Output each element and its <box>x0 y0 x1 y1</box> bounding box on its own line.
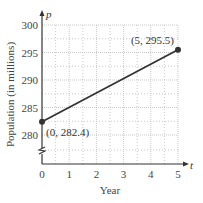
x-tick-label: 3 <box>121 168 127 180</box>
x-axis-arrow-icon <box>183 162 189 167</box>
y-tick-label: 295 <box>22 47 39 59</box>
data-point <box>39 119 45 125</box>
y-tick-label: 300 <box>22 19 39 31</box>
y-axis-arrow-icon <box>40 10 45 16</box>
x-axis-title: Year <box>100 184 121 196</box>
population-line-chart: 012345280285290295300 (0, 282.4)(5, 295.… <box>0 0 203 203</box>
x-tick-label: 0 <box>39 168 45 180</box>
x-tick-label: 1 <box>66 168 72 180</box>
y-tick-label: 290 <box>22 74 39 86</box>
y-axis-variable: p <box>45 8 52 20</box>
x-tick-label: 4 <box>148 168 154 180</box>
y-tick-label: 285 <box>22 102 39 114</box>
x-axis-variable: t <box>190 159 194 171</box>
y-tick-label: 280 <box>22 129 39 141</box>
data-point-label: (5, 295.5) <box>131 34 174 47</box>
data-point <box>175 47 181 53</box>
y-axis-title: Population (in millions) <box>4 42 17 147</box>
data-point-label: (0, 282.4) <box>46 126 89 139</box>
x-tick-label: 5 <box>175 168 181 180</box>
grid-lines <box>42 25 178 164</box>
x-tick-label: 2 <box>94 168 100 180</box>
population-line <box>42 50 178 122</box>
